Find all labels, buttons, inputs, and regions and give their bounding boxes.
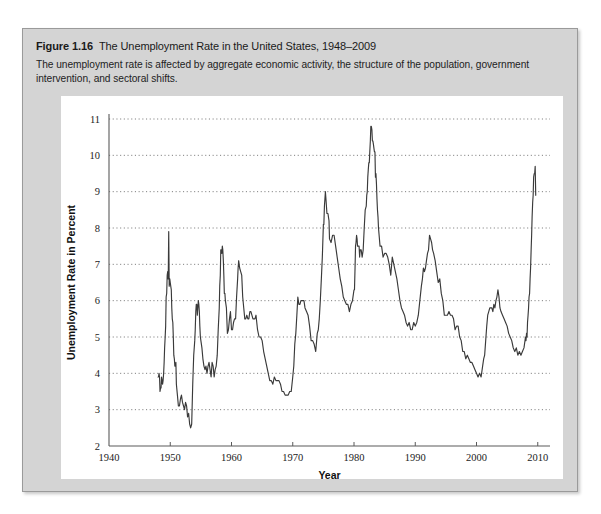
x-tick-label: 2010 [527,452,548,463]
y-tick-label: 2 [95,441,100,452]
caption-block: Figure 1.16 The Unemployment Rate in the… [36,39,564,86]
y-tick-label: 9 [95,186,100,197]
y-tick-label: 5 [95,332,100,343]
figure-caption: The unemployment rate is affected by agg… [36,58,564,86]
unemployment-rate-series [158,126,536,428]
y-tick-label: 7 [95,259,100,270]
x-tick-label: 2000 [466,452,487,463]
x-tick-label: 1940 [99,452,120,463]
x-tick-label: 1990 [405,452,426,463]
x-axis-title: Year [318,469,340,479]
x-tick-label: 1960 [221,452,242,463]
y-tick-label: 11 [90,114,100,125]
x-tick-label: 1970 [282,452,303,463]
y-tick-label: 8 [95,223,100,234]
x-tick-label: 1980 [344,452,365,463]
y-tick-label: 10 [90,150,101,161]
y-tick-label: 4 [95,368,101,379]
y-tick-label: 6 [95,295,100,306]
figure-title-text: The Unemployment Rate in the United Stat… [99,40,376,52]
figure-panel: Figure 1.16 The Unemployment Rate in the… [22,28,578,492]
chart-plot-area: 234567891011 194019501960197019801990200… [61,96,563,479]
figure-label: Figure 1.16 [36,40,93,52]
y-axis-title: Unemployment Rate in Percent [65,204,77,360]
figure-title: Figure 1.16 The Unemployment Rate in the… [36,39,564,54]
unemployment-line-chart: 234567891011 194019501960197019801990200… [61,96,563,479]
y-tick-label: 3 [95,404,100,415]
x-axis-ticks: 19401950196019701980199020002010 [99,442,549,463]
x-tick-label: 1950 [160,452,181,463]
y-axis-ticks: 234567891011 [90,114,101,452]
